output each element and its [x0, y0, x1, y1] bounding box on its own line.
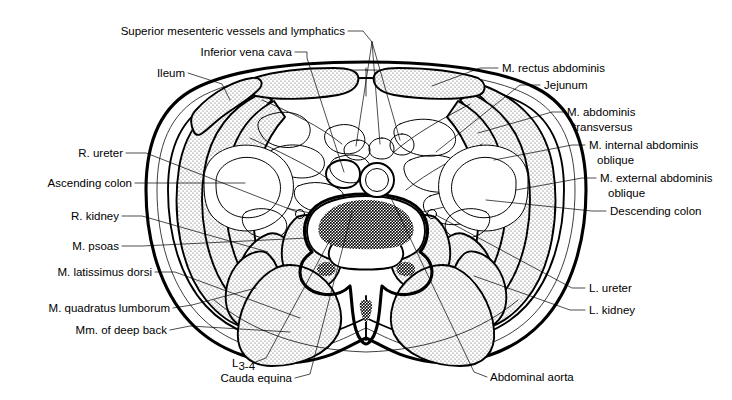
label-jejunum: Jejunum	[544, 79, 587, 91]
ascending-colon-lumen	[216, 157, 280, 217]
label-ileum: Ileum	[157, 67, 185, 79]
rectus-abdominis-left	[247, 68, 358, 99]
label-r-ureter: R. ureter	[78, 147, 123, 159]
label-abdominis-transversus-line1: M. abdominis	[567, 106, 636, 118]
label-internal-oblique-line1: M. internal abdominis	[589, 139, 699, 151]
label-quadratus-lumborum: M. quadratus lumborum	[49, 302, 170, 314]
leader-superior-mesenteric-b1	[356, 42, 372, 146]
sma-vessel	[344, 140, 370, 160]
rectus-abdominis-group	[247, 68, 484, 99]
label-latissimus-dorsi: M. latissimus dorsi	[57, 266, 152, 278]
label-inferior-vena-cava: Inferior vena cava	[201, 46, 293, 58]
inferior-vena-cava-vessel	[326, 160, 360, 188]
label-rectus-abdominis: M. rectus abdominis	[502, 62, 605, 74]
label-external-oblique-line2: oblique	[608, 187, 645, 199]
label-cauda-equina: Cauda equina	[220, 372, 292, 384]
great-vessels-group	[326, 134, 414, 197]
nerve-root-right	[317, 262, 336, 276]
label-abdominis-transversus-line2: transversus	[573, 121, 633, 133]
nerve-root-left	[396, 262, 415, 276]
label-abdominal-aorta: Abdominal aorta	[490, 371, 574, 383]
anatomical-cross-section-figure: Superior mesenteric vessels and lymphati…	[0, 0, 732, 400]
label-external-oblique-line1: M. external abdominis	[600, 172, 713, 184]
interspinous-detail	[360, 300, 373, 322]
label-vertebra-level: L3-4	[232, 357, 256, 372]
lymphatic-node	[390, 134, 414, 155]
leader-superior-mesenteric	[348, 31, 372, 42]
label-r-kidney: R. kidney	[71, 210, 119, 222]
descending-colon-lumen	[452, 157, 516, 217]
vertebra-sub-text: 3-4	[238, 360, 255, 372]
label-internal-oblique-line2: oblique	[597, 154, 634, 166]
label-ascending-colon: Ascending colon	[48, 177, 132, 189]
leader-superior-mesenteric-b2	[372, 42, 380, 144]
bowel-loop-6	[394, 119, 456, 156]
label-deep-back: Mm. of deep back	[76, 324, 168, 336]
label-superior-mesenteric: Superior mesenteric vessels and lymphati…	[121, 25, 346, 37]
label-psoas: M. psoas	[72, 240, 119, 252]
label-descending-colon: Descending colon	[610, 205, 701, 217]
label-l-ureter: L. ureter	[589, 282, 632, 294]
label-l-kidney: L. kidney	[589, 304, 635, 316]
